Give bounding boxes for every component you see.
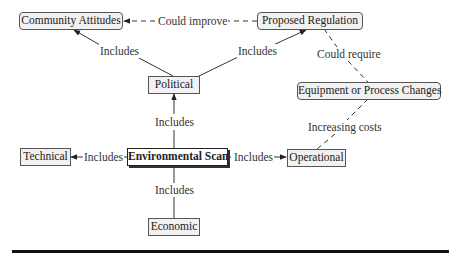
horizontal-rule: [12, 250, 449, 253]
label-increasing-costs: Increasing costs: [307, 120, 383, 134]
label-includes-community: Includes: [99, 44, 140, 58]
label-includes-operational: Includes: [233, 150, 274, 164]
label-could-improve: Could improve: [157, 14, 228, 28]
edge-political-regulation: [199, 57, 238, 76]
edge-regulation-equipment: [324, 29, 337, 47]
label-includes-regulation: Includes: [237, 44, 278, 58]
edge-equipment-operational: [347, 99, 368, 120]
node-operational: Operational: [287, 149, 346, 167]
label-includes-political: Includes: [154, 115, 195, 129]
node-proposed-regulation: Proposed Regulation: [257, 12, 363, 30]
node-environmental-scan: Environmental Scan: [127, 148, 228, 166]
node-economic: Economic: [148, 218, 200, 236]
node-community-attitudes: Community Attitudes: [19, 12, 123, 30]
node-technical: Technical: [20, 148, 71, 166]
edge-political-community: [137, 57, 173, 76]
node-political: Political: [148, 76, 200, 94]
edges-layer: [0, 0, 456, 256]
label-includes-technical: Includes: [83, 150, 124, 164]
node-equipment-process-changes: Equipment or Process Changes: [297, 82, 441, 100]
label-could-require: Could require: [316, 47, 382, 61]
concept-map: Community Attitudes Proposed Regulation …: [0, 0, 456, 256]
label-includes-economic: Includes: [154, 183, 195, 197]
